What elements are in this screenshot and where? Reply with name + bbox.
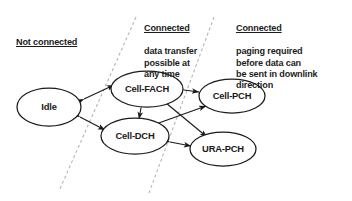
edge-idle-cell-fach <box>84 85 114 99</box>
region-body-connected-data-transfer: data transfer possible at any time <box>144 46 197 80</box>
diagram-canvas: Idle Cell-FACH Cell-PCH Cell-DCH URA-PCH… <box>0 0 352 201</box>
region-heading-not-connected: Not connected <box>16 37 77 48</box>
state-node-idle[interactable]: Idle <box>17 88 81 126</box>
state-label-idle: Idle <box>41 101 56 112</box>
region-label-not-connected: Not connected <box>16 26 77 60</box>
state-nodes: Idle Cell-FACH Cell-PCH Cell-DCH URA-PCH <box>17 71 265 166</box>
state-node-cell-dch[interactable]: Cell-DCH <box>101 118 169 154</box>
edge-cell-dch-ura-pch <box>170 142 191 146</box>
state-label-ura-pch: URA-PCH <box>202 143 244 154</box>
region-body-connected-paging: paging required before data can be sent … <box>236 46 318 92</box>
state-label-cell-dch: Cell-DCH <box>115 130 154 141</box>
state-node-ura-pch[interactable]: URA-PCH <box>190 132 256 166</box>
region-heading-connected-paging: Connected <box>236 23 318 34</box>
region-label-connected-paging: Connected paging required before data ca… <box>236 12 318 103</box>
region-heading-connected-data-transfer: Connected <box>144 23 197 34</box>
edge-cell-dch-cell-pch <box>156 106 206 124</box>
edge-idle-cell-dch <box>80 117 105 130</box>
region-label-connected-data-transfer: Connected data transfer possible at any … <box>144 12 197 92</box>
edge-cell-fach-cell-dch <box>139 108 141 119</box>
